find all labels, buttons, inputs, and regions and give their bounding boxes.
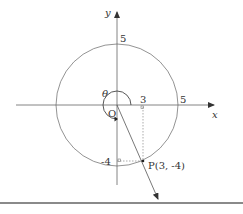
angle-label: θ [102,88,108,99]
point-p [142,160,145,163]
x-intercept-label: 5 [180,94,186,105]
y-intercept-label: 5 [120,33,126,44]
point-label: P(3, -4) [148,160,185,171]
y-axis-label: y [104,7,111,18]
bottom-divider [0,202,243,204]
x-tick-label: 3 [140,94,146,105]
origin-label: O [108,108,116,119]
terminal-ray [117,105,158,199]
x-axis-label: x [212,109,218,120]
y-tick-label: -4 [101,156,111,167]
unit-circle-diagram: y x O 5 5 3 -4 θ P(3, -4) [0,0,243,214]
